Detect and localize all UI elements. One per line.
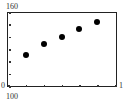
x-max-label: 1 <box>119 82 123 90</box>
data-point <box>41 41 47 47</box>
y-min-label: 100 <box>6 93 18 101</box>
x-tick <box>44 85 46 87</box>
y-tick <box>9 74 11 76</box>
data-point <box>94 19 100 25</box>
x-tick <box>62 85 64 87</box>
x-min-label: 0 <box>1 82 5 90</box>
x-tick <box>26 85 28 87</box>
y-tick <box>9 86 11 88</box>
plot-area <box>7 12 117 87</box>
y-tick <box>9 49 11 51</box>
x-tick <box>97 85 99 87</box>
y-tick <box>9 12 11 14</box>
y-tick <box>9 37 11 39</box>
x-tick <box>79 85 81 87</box>
y-tick <box>9 24 11 26</box>
data-point <box>23 52 29 58</box>
y-max-label: 160 <box>6 3 18 11</box>
x-tick <box>115 85 117 87</box>
data-point <box>59 34 65 40</box>
y-tick <box>9 61 11 63</box>
